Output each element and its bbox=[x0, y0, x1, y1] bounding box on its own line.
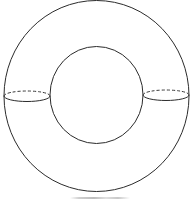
right-cross-section-front bbox=[143, 95, 189, 100]
caption-text bbox=[70, 197, 130, 199]
inner-boundary bbox=[50, 47, 143, 144]
torus-diagram bbox=[0, 0, 194, 201]
left-cross-section bbox=[4, 91, 50, 102]
right-cross-section bbox=[143, 90, 189, 100]
left-cross-section-front bbox=[4, 96, 50, 102]
left-cross-section-back bbox=[4, 91, 50, 96]
cut-off-caption bbox=[70, 196, 130, 201]
outer-boundary bbox=[4, 1, 189, 192]
right-cross-section-back bbox=[143, 90, 189, 95]
